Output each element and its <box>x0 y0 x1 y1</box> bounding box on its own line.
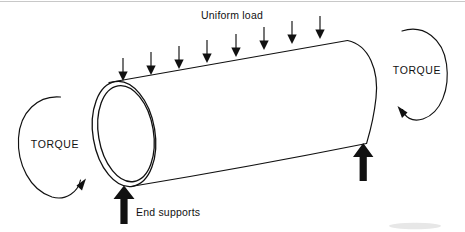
load-arrow <box>118 58 127 81</box>
load-arrow <box>231 34 240 57</box>
end-support-arrow-right <box>353 143 373 181</box>
uniform-load-arrow-group <box>118 16 324 81</box>
engineering-diagram-figure: Uniform load TORQUE TORQUE End supports <box>0 0 465 232</box>
cylinder-left-end-ring <box>85 77 164 192</box>
cylinder-torque-diagram-svg: Uniform load TORQUE TORQUE End supports <box>0 0 465 232</box>
cylinder-body <box>85 41 377 192</box>
load-arrow <box>174 46 183 69</box>
torque-label-left: TORQUE <box>31 138 79 150</box>
end-supports-label: End supports <box>136 206 200 218</box>
uniform-load-label: Uniform load <box>201 9 263 21</box>
load-arrow <box>202 40 211 63</box>
cylinder-bottom-edge <box>131 144 367 187</box>
end-support-arrow-left <box>114 186 135 225</box>
torque-label-right: TORQUE <box>393 64 441 76</box>
load-arrow <box>259 27 268 50</box>
load-arrow <box>315 16 324 39</box>
scan-artifact-smudge <box>389 223 441 229</box>
load-arrow <box>287 21 296 44</box>
ring-outer-ellipse <box>85 77 164 192</box>
cylinder-top-edge <box>109 41 348 83</box>
cylinder-right-end-arc <box>348 41 377 144</box>
load-arrow <box>146 52 155 75</box>
